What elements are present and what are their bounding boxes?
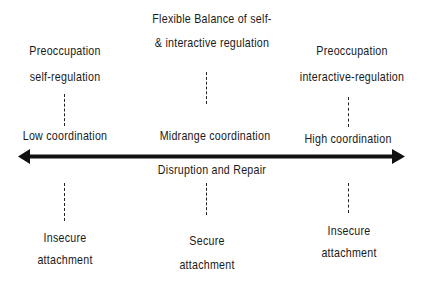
bottom-right-line2: attachment: [296, 242, 403, 264]
bottom-right-connector: [348, 183, 349, 213]
bottom-center-line1: Secure: [154, 230, 261, 252]
bottom-center-line2: attachment: [154, 254, 261, 276]
bottom-left-line2: attachment: [12, 249, 119, 271]
bottom-left-line1: Insecure: [12, 227, 119, 249]
bottom-center-connector: [206, 183, 207, 215]
disruption-and-repair-label: Disruption and Repair: [138, 159, 286, 181]
bottom-left-label: Insecure attachment: [12, 227, 119, 271]
bottom-right-label: Insecure attachment: [296, 220, 403, 264]
bottom-center-label: Secure attachment: [154, 230, 261, 276]
bottom-left-connector: [64, 183, 65, 221]
bottom-right-line1: Insecure: [296, 220, 403, 242]
